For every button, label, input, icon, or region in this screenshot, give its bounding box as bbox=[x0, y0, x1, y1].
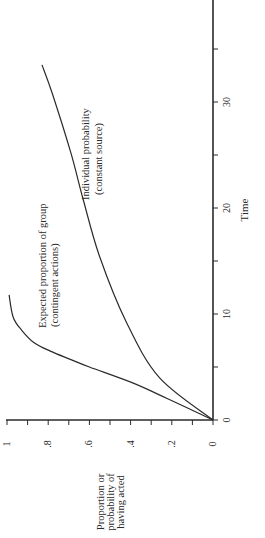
proportion-axis-title: Proportion orprobability ofhaving acted bbox=[95, 473, 126, 531]
group-curve-label: (contingent actions) bbox=[49, 243, 61, 327]
time-tick-label: 0 bbox=[221, 418, 232, 423]
individual-curve-label: Individual probability bbox=[80, 107, 91, 200]
proportion-tick-label: .4 bbox=[125, 440, 136, 448]
proportion-axis-title-line: having acted bbox=[115, 475, 126, 529]
proportion-tick-label: .6 bbox=[83, 440, 94, 448]
axes: 01020304 0.2.4.6.81 bbox=[1, 0, 232, 448]
time-tick-label: 30 bbox=[221, 97, 232, 107]
proportion-tick-label: .2 bbox=[166, 440, 177, 448]
proportion-ticks: 0.2.4.6.81 bbox=[1, 420, 218, 448]
time-ticks: 01020304 bbox=[213, 0, 232, 423]
time-tick-label: 10 bbox=[221, 309, 232, 319]
proportion-tick-label: 0 bbox=[207, 442, 218, 447]
annotations: Expected proportion of group(contingent … bbox=[37, 107, 105, 328]
individual-probability-curve bbox=[42, 65, 213, 420]
proportion-tick-label: .8 bbox=[42, 440, 53, 448]
proportion-tick-label: 1 bbox=[1, 442, 12, 447]
chart: 01020304 0.2.4.6.81 Expected proportion … bbox=[0, 0, 265, 538]
group-curve-label: Expected proportion of group bbox=[37, 203, 48, 328]
time-axis-title: Time bbox=[238, 198, 250, 221]
time-tick-label: 20 bbox=[221, 203, 232, 213]
individual-curve-label: (constant source) bbox=[93, 122, 105, 195]
